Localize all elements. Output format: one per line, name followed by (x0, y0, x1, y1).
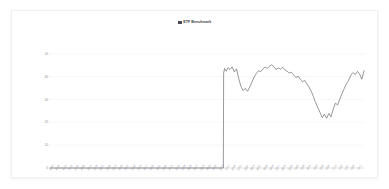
x-axis-tick-label: 08/28 (264, 165, 269, 171)
x-axis-tick-label: 02/06 (81, 165, 86, 171)
x-axis-tick-label: 05/22 (176, 165, 181, 171)
x-axis-tick-label: 02/27 (100, 165, 105, 171)
chart-title-text: ETF Benchmark (183, 20, 211, 24)
x-axis-tick-label: 01/23 (69, 165, 74, 171)
x-axis-tick-label: 09/04 (270, 165, 275, 171)
x-axis-tick-label: 04/24 (150, 165, 155, 171)
x-axis-tick-label: 12/11 (358, 165, 363, 171)
x-axis-tick-label: 07/17 (226, 165, 231, 171)
x-axis-tick-label: 10/23 (314, 165, 319, 171)
x-axis-tick-label: 10/16 (307, 165, 312, 171)
chart-card: 01020304050 01/0201/0901/1601/2301/3002/… (11, 10, 378, 178)
x-axis-tick-label: 03/13 (113, 165, 118, 171)
x-axis-tick-label: 08/21 (257, 165, 262, 171)
x-axis-tick-label: 06/19 (201, 165, 206, 171)
x-axis-tick-label: 05/15 (169, 165, 174, 171)
x-axis-tick-label: 09/25 (289, 165, 294, 171)
x-axis-tick-label: 04/03 (132, 165, 137, 171)
x-axis-tick-label: 07/10 (220, 165, 225, 171)
x-axis-tick-label: 05/29 (182, 165, 187, 171)
x-axis-tick-label: 03/27 (125, 165, 130, 171)
x-axis-tick-label: 11/06 (326, 165, 331, 171)
legend-swatch-icon (178, 21, 182, 24)
x-axis-tick-labels: 01/0201/0901/1601/2301/3002/0602/1302/20… (12, 11, 378, 178)
screenshot-root: 01020304050 01/0201/0901/1601/2301/3002/… (0, 0, 389, 189)
x-axis-tick-label: 07/31 (238, 165, 243, 171)
x-axis-tick-label: 05/01 (157, 165, 162, 171)
x-axis-tick-label: 02/13 (88, 165, 93, 171)
x-axis-tick-label: 09/18 (282, 165, 287, 171)
x-axis-tick-label: 01/16 (63, 165, 68, 171)
x-axis-tick-label: 11/20 (339, 165, 344, 171)
x-axis-tick-label: 01/09 (56, 165, 61, 171)
x-axis-tick-label: 03/06 (107, 165, 112, 171)
x-axis-tick-label: 12/04 (351, 165, 356, 171)
x-axis-tick-label: 11/13 (333, 165, 338, 171)
x-axis-tick-label: 07/03 (213, 165, 218, 171)
chart-title: ETF Benchmark (12, 20, 377, 25)
x-axis-tick-label: 08/07 (245, 165, 250, 171)
x-axis-tick-label: 06/12 (194, 165, 199, 171)
